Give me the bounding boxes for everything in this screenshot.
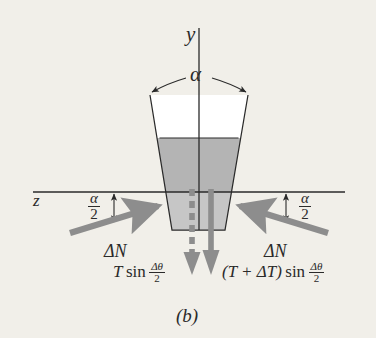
alpha-half-right-label: α 2 xyxy=(299,191,311,223)
delta-n-left-label: ΔN xyxy=(104,242,127,260)
wedge-fill-group xyxy=(140,88,260,236)
tension-left-numerator: Δθ xyxy=(149,261,165,272)
alpha-half-left-denominator: 2 xyxy=(88,206,100,222)
diagram-canvas xyxy=(0,0,376,338)
tension-left-arrow-head xyxy=(184,252,201,275)
tension-right-lead: (T + ΔT) xyxy=(222,262,282,281)
tension-left-denominator: 2 xyxy=(149,272,165,284)
alpha-half-left-numerator: α xyxy=(88,191,100,206)
figure-panel-b: y z α α 2 α 2 ΔN ΔN T sin Δθ 2 (T + ΔT) … xyxy=(0,0,376,338)
tension-left-label: T sin Δθ 2 xyxy=(113,261,165,284)
figure-caption: (b) xyxy=(176,306,198,325)
alpha-arc-right xyxy=(212,78,246,92)
alpha-half-right-numerator: α xyxy=(299,191,311,206)
alpha-half-left-label: α 2 xyxy=(88,191,100,223)
y-axis-label: y xyxy=(186,24,195,45)
alpha-arc-left xyxy=(152,78,186,92)
alpha-label: α xyxy=(190,64,201,85)
tension-left-function: sin xyxy=(126,262,146,281)
z-axis-label: z xyxy=(33,192,40,209)
tension-right-arrow-head xyxy=(203,250,220,275)
alpha-half-right-denominator: 2 xyxy=(299,206,311,222)
tension-right-denominator: 2 xyxy=(309,272,325,284)
tension-right-numerator: Δθ xyxy=(309,261,325,272)
tension-right-function: sin xyxy=(285,262,305,281)
tension-right-label: (T + ΔT) sin Δθ 2 xyxy=(222,261,324,284)
delta-n-right-arrow xyxy=(240,206,328,233)
delta-n-right-label: ΔN xyxy=(264,242,287,260)
